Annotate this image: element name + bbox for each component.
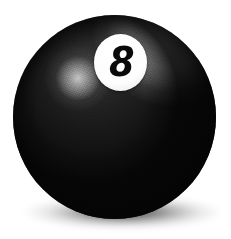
- billiard-ball: 8: [13, 15, 216, 219]
- eight-ball-scene: 8: [0, 0, 231, 239]
- number-disc: 8: [94, 34, 147, 91]
- ball-number-label: 8: [109, 42, 134, 82]
